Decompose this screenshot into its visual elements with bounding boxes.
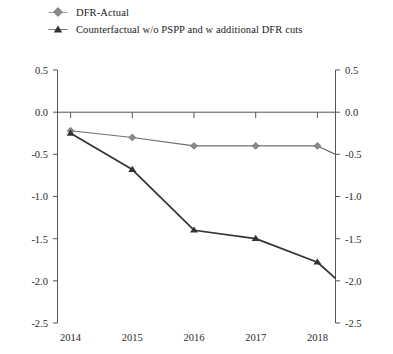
right-tick-label-1: 0.0 xyxy=(345,107,358,118)
left-tick-label-4: -1.5 xyxy=(31,234,48,245)
left-tick-label-2: -0.5 xyxy=(31,149,48,160)
left-axis-ticks xyxy=(53,70,58,323)
chart-plot-area: 0.5 0.0 -0.5 -1.0 -1.5 -2.0 -2.5 0.5 0.0… xyxy=(0,0,393,354)
left-tick-label-6: -2.5 xyxy=(31,318,48,329)
right-tick-label-6: -2.5 xyxy=(345,318,362,329)
series-dfr-actual xyxy=(67,127,335,154)
data-series-layer xyxy=(67,127,336,278)
series-line xyxy=(71,133,336,278)
left-tick-label-3: -1.0 xyxy=(31,191,48,202)
left-tick-label-0: 0.5 xyxy=(35,65,48,76)
right-tick-label-3: -1.0 xyxy=(345,191,362,202)
right-tick-label-4: -1.5 xyxy=(345,234,362,245)
right-axis-ticks xyxy=(336,70,341,323)
x-tick-label-2018: 2018 xyxy=(307,332,328,343)
x-tick-label-2017: 2017 xyxy=(245,332,266,343)
diamond-marker-icon xyxy=(252,143,259,150)
x-tick-label-2015: 2015 xyxy=(122,332,143,343)
x-axis-ticks xyxy=(71,112,318,118)
left-tick-label-5: -2.0 xyxy=(31,276,48,287)
diamond-marker-icon xyxy=(314,143,321,150)
right-tick-label-2: -0.5 xyxy=(345,149,362,160)
diamond-marker-icon xyxy=(191,143,198,150)
diamond-marker-icon xyxy=(129,134,136,141)
right-tick-label-5: -2.0 xyxy=(345,276,362,287)
series-line xyxy=(71,131,336,155)
series-counterfactual xyxy=(67,129,336,278)
x-tick-label-2016: 2016 xyxy=(184,332,205,343)
right-tick-label-0: 0.5 xyxy=(345,65,358,76)
chart-container: DFR-Actual Counterfactual w/o PSPP and w… xyxy=(0,0,393,354)
left-tick-label-1: 0.0 xyxy=(35,107,48,118)
x-tick-label-2014: 2014 xyxy=(60,332,82,343)
